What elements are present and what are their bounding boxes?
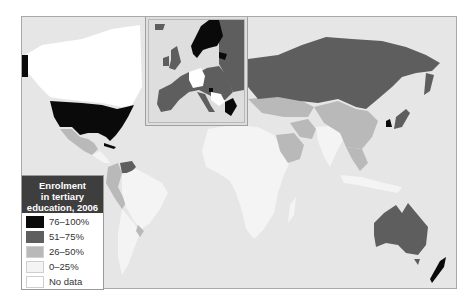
region-south-korea — [386, 119, 392, 127]
legend-label: 0–25% — [49, 261, 79, 272]
legend-swatch-no-data — [26, 276, 44, 288]
legend-swatch-0-25 — [26, 261, 44, 273]
legend-label: 26–50% — [49, 246, 84, 257]
legend-item: 26–50% — [26, 245, 103, 258]
europe-inset-map — [145, 16, 248, 126]
region-united-states — [50, 101, 134, 141]
region-tasmania — [414, 259, 420, 265]
legend-title: Enrolmentin tertiaryeducation, 2006 — [22, 176, 103, 213]
legend-swatch-76-100 — [26, 216, 44, 228]
region-australia — [374, 203, 428, 255]
region-central-america — [92, 151, 110, 163]
inset-region-hungary — [209, 88, 213, 92]
map-legend: Enrolmentin tertiaryeducation, 2006 76–1… — [21, 175, 104, 290]
region-madagascar — [288, 197, 296, 223]
legend-label: No data — [49, 276, 82, 287]
legend-label: 76–100% — [49, 216, 89, 227]
legend-swatch-26-50 — [26, 246, 44, 258]
legend-item: 76–100% — [26, 215, 103, 228]
legend-item: 51–75% — [26, 230, 103, 243]
region-caribbean — [104, 143, 116, 149]
europe-inset-svg — [149, 20, 244, 122]
region-alaska — [22, 55, 28, 77]
legend-swatch-51-75 — [26, 231, 44, 243]
region-kamchatka — [424, 73, 434, 95]
region-indonesia — [340, 175, 402, 193]
region-new-zealand — [430, 257, 446, 283]
region-japan — [394, 109, 410, 129]
legend-item: 0–25% — [26, 260, 103, 273]
region-canada — [22, 25, 142, 107]
legend-item: No data — [26, 275, 103, 288]
region-southeast-asia — [346, 147, 368, 171]
legend-label: 51–75% — [49, 231, 84, 242]
